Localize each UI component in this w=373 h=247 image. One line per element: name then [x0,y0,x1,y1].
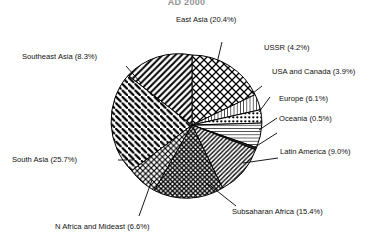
label-usa-and-canada: USA and Canada (3.9%) [272,67,355,76]
label-latin-america: Latin America (9.0%) [280,147,350,156]
leader-line-usa-canada [259,97,270,112]
label-southeast-asia: Southeast Asia (8.3%) [22,52,97,61]
label-europe: Europe (6.1%) [279,94,328,103]
label-east-asia: East Asia (20.4%) [176,15,236,24]
label-south-asia: South Asia (25.7%) [12,155,77,164]
leader-line-east-asia [217,42,222,63]
pie-chart-figure: AD 2000 [0,0,373,247]
leader-line-n-africa [139,180,152,216]
label-oceania: Oceania (0.5%) [279,114,332,123]
label-ussr: USSR (4.2%) [264,43,310,52]
label-n-africa-and-mideast: N Africa and Mideast (6.6%) [55,222,150,231]
leader-line-ussr [253,86,262,93]
label-subsaharan-africa: Subsaharan Africa (15.4%) [232,207,323,216]
